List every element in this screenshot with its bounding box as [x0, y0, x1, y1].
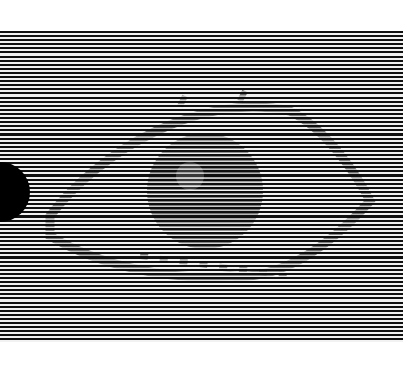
hidden-eye-icon [0, 31, 403, 342]
